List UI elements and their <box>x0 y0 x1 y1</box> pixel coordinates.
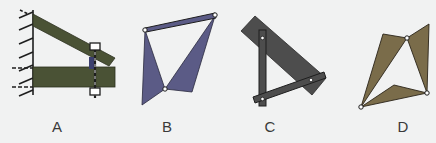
figure-label-a: A <box>42 118 72 135</box>
pin-joint <box>405 36 409 40</box>
pin-joint <box>359 105 363 109</box>
figure-a <box>12 10 115 98</box>
figure-label-b: B <box>152 118 182 135</box>
figure-d <box>359 24 429 109</box>
wall-hatch-icon <box>12 10 33 96</box>
pin-joint <box>213 13 217 17</box>
figure-label-c: C <box>255 118 285 135</box>
pin-joint <box>143 28 147 32</box>
top-link-bar <box>145 13 216 32</box>
pin-joint <box>425 91 429 95</box>
pin-joint <box>163 87 167 91</box>
slanted-strut <box>33 14 115 66</box>
pin-joint <box>261 97 265 101</box>
figure-b <box>142 13 217 105</box>
pin-joint <box>309 78 313 82</box>
horizontal-beam <box>33 67 115 87</box>
left-plate <box>142 30 165 105</box>
right-plate <box>165 16 215 92</box>
bolt-head-top <box>90 43 100 50</box>
figure-c <box>241 16 326 106</box>
pin-joint <box>261 36 265 40</box>
bolt-head-bottom <box>90 88 100 95</box>
figure-label-d: D <box>388 118 418 135</box>
rotated-plate <box>241 16 326 95</box>
upper-right-plate <box>407 24 429 93</box>
